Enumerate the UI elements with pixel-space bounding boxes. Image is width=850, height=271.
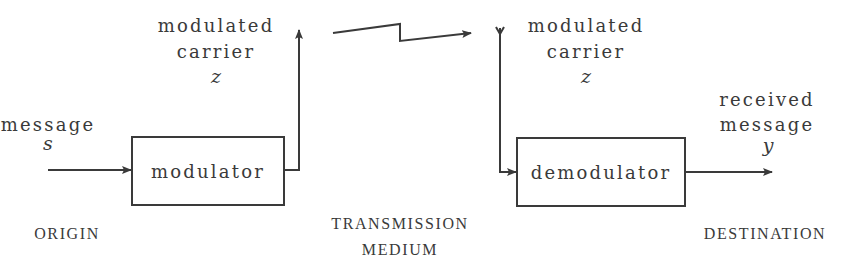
origin-section-label: ORIGIN <box>22 226 112 242</box>
demodulator-input-arrow <box>500 28 516 172</box>
modulator-output-arrow <box>284 30 299 170</box>
input-symbol: s <box>28 134 68 153</box>
transmission-bolt-arrow <box>333 24 471 41</box>
medium-section-label-line2: MEDIUM <box>310 242 490 258</box>
demodulator-block: demodulator <box>516 137 686 207</box>
modulated-carrier-symbol: z <box>196 67 236 86</box>
medium-section-label-line1: TRANSMISSION <box>310 216 490 232</box>
destination-section-label: DESTINATION <box>690 226 840 242</box>
modulator-label: modulator <box>151 161 265 182</box>
demodulator-label: demodulator <box>531 162 672 183</box>
modulated-carrier-label-line1: modulated <box>150 17 282 35</box>
output-symbol: y <box>748 136 788 155</box>
output-label-line2: message <box>712 116 822 134</box>
received-carrier-symbol: z <box>566 67 606 86</box>
modulated-carrier-label-line2: carrier <box>150 43 282 61</box>
modulator-block: modulator <box>131 136 285 206</box>
communication-system-diagram: message s modulator modulated carrier z … <box>0 0 850 271</box>
received-carrier-label-line1: modulated <box>520 17 652 35</box>
received-carrier-label-line2: carrier <box>520 43 652 61</box>
output-label-line1: received <box>712 91 822 109</box>
